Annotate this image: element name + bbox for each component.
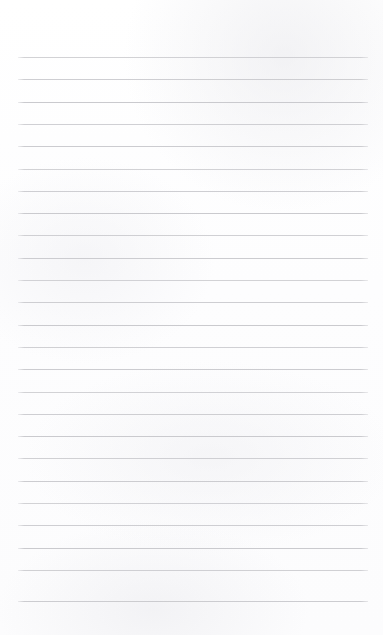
- writing-line-3[interactable]: [18, 82, 368, 101]
- writing-line-7[interactable]: [18, 172, 368, 191]
- rule-line-11: [18, 280, 368, 281]
- writing-line-9[interactable]: [18, 216, 368, 235]
- writing-line-14[interactable]: [18, 328, 368, 347]
- writing-line-13[interactable]: [18, 305, 368, 324]
- rule-line-15: [18, 369, 368, 370]
- rule-line-13: [18, 325, 368, 326]
- writing-line-8[interactable]: [18, 194, 368, 213]
- writing-line-17[interactable]: [18, 395, 368, 414]
- writing-line-6[interactable]: [18, 149, 368, 168]
- rule-line-3: [18, 102, 368, 103]
- rule-line-10: [18, 258, 368, 259]
- writing-line-20[interactable]: [18, 461, 368, 480]
- writing-line-22[interactable]: [18, 506, 368, 525]
- writing-line-16[interactable]: [18, 372, 368, 391]
- writing-line-10[interactable]: [18, 238, 368, 257]
- rule-line-4: [18, 124, 368, 125]
- writing-line-12[interactable]: [18, 283, 368, 302]
- rule-line-7: [18, 191, 368, 192]
- writing-line-24[interactable]: [18, 551, 368, 570]
- rule-line-24: [18, 570, 368, 571]
- rule-line-17: [18, 414, 368, 415]
- rule-line-21: [18, 503, 368, 504]
- rule-line-19: [18, 458, 368, 459]
- rule-line-9: [18, 235, 368, 236]
- page-footer-margin: [0, 602, 383, 635]
- writing-line-18[interactable]: [18, 417, 368, 436]
- writing-line-1[interactable]: [18, 38, 368, 57]
- writing-line-25[interactable]: [18, 582, 368, 601]
- rule-line-1: [18, 57, 368, 58]
- rule-line-14: [18, 347, 368, 348]
- writing-line-23[interactable]: [18, 528, 368, 547]
- writing-line-5[interactable]: [18, 127, 368, 146]
- ruled-lines-group: [0, 0, 383, 635]
- writing-line-4[interactable]: [18, 105, 368, 124]
- rule-line-6: [18, 169, 368, 170]
- writing-line-19[interactable]: [18, 439, 368, 458]
- rule-line-5: [18, 146, 368, 147]
- notepad-page: [0, 0, 383, 635]
- rule-line-18: [18, 436, 368, 437]
- rule-line-23: [18, 548, 368, 549]
- writing-line-21[interactable]: [18, 484, 368, 503]
- rule-line-16: [18, 392, 368, 393]
- rule-line-12: [18, 302, 368, 303]
- rule-line-8: [18, 213, 368, 214]
- writing-line-11[interactable]: [18, 261, 368, 280]
- writing-line-15[interactable]: [18, 350, 368, 369]
- rule-line-20: [18, 481, 368, 482]
- writing-line-2[interactable]: [18, 60, 368, 79]
- rule-line-2: [18, 79, 368, 80]
- rule-line-22: [18, 525, 368, 526]
